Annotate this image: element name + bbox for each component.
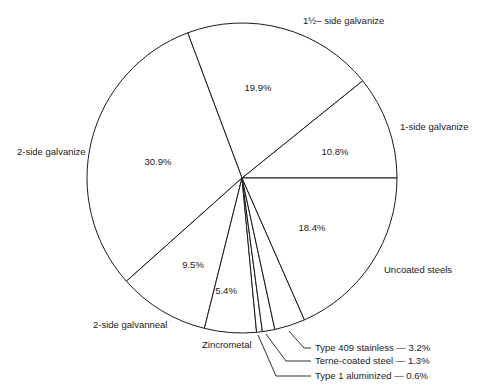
- pie-chart: 10.8%1-side galvanize19.9%1½– side galva…: [0, 0, 478, 386]
- slice-callout-label: Type 409 stainless — 3.2%: [315, 342, 431, 353]
- slice-category-label: 2-side galvanneal: [93, 319, 167, 330]
- leader-line-terne-coated-steel: [266, 334, 311, 361]
- slice-percent-label: 18.4%: [299, 222, 326, 233]
- slice-callout-label: Terne-coated steel — 1.3%: [315, 355, 430, 366]
- slice-callout-label: Type 1 aluminized — 0.6%: [315, 370, 429, 381]
- pie-chart-svg: 10.8%1-side galvanize19.9%1½– side galva…: [0, 0, 478, 386]
- leader-line-type-1-aluminized: [258, 335, 311, 376]
- pie-slices: [87, 23, 397, 333]
- slice-category-label: 2-side galvanize: [17, 146, 86, 157]
- leader-line-type-409-stainless: [289, 331, 311, 348]
- slice-percent-label: 5.4%: [215, 285, 237, 296]
- slice-category-label: Uncoated steels: [384, 264, 452, 275]
- slice-percent-label: 9.5%: [182, 259, 204, 270]
- slice-percent-label: 30.9%: [145, 156, 172, 167]
- slice-category-label: 1-side galvanize: [400, 121, 469, 132]
- slice-category-label: Zincrometal: [202, 339, 252, 350]
- leader-lines: [258, 331, 311, 376]
- slice-percent-label: 10.8%: [322, 146, 349, 157]
- slice-category-label: 1½– side galvanize: [303, 15, 384, 26]
- slice-percent-label: 19.9%: [245, 82, 272, 93]
